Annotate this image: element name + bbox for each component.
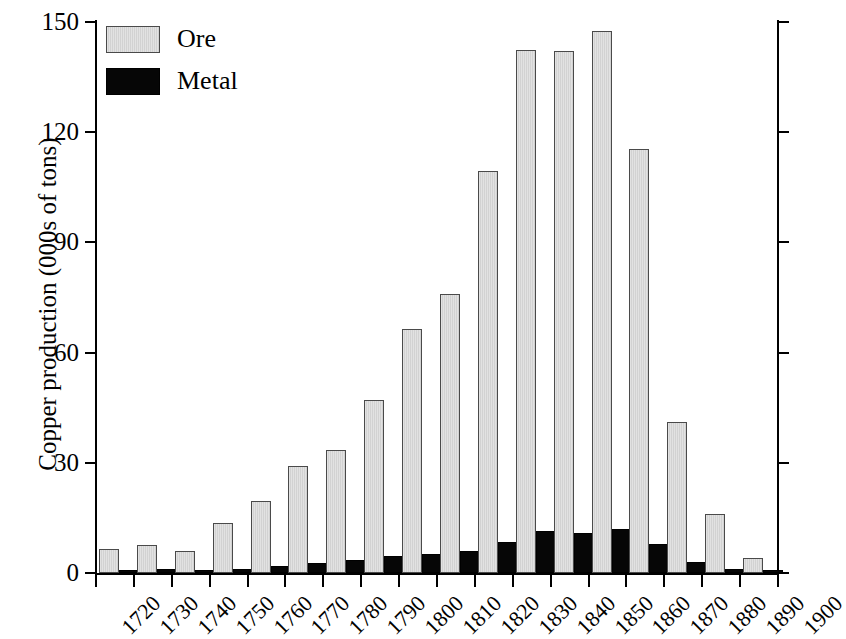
bar-ore-1860 xyxy=(629,149,649,573)
bar-ore-1850 xyxy=(592,31,612,573)
right-tick-60 xyxy=(778,352,789,354)
metal-swatch-icon xyxy=(106,68,160,95)
x-tick-1850 xyxy=(588,575,590,587)
x-tick-1810 xyxy=(436,575,438,587)
y-tick-0 xyxy=(85,572,96,574)
bar-ore-1760 xyxy=(251,501,271,573)
y-axis-line xyxy=(95,20,97,575)
x-tick-label-1800: 1800 xyxy=(421,592,468,639)
x-tick-1770 xyxy=(284,575,286,587)
right-axis-line xyxy=(777,20,779,575)
y-tick-label-60: 60 xyxy=(54,340,79,365)
y-tick-120 xyxy=(85,131,96,133)
x-tick-1900 xyxy=(777,575,779,587)
x-tick-label-1850: 1850 xyxy=(610,592,657,639)
x-tick-label-1750: 1750 xyxy=(232,592,279,639)
x-tick-1800 xyxy=(398,575,400,587)
y-tick-60 xyxy=(85,352,96,354)
bar-ore-1810 xyxy=(440,294,460,573)
y-tick-label-0: 0 xyxy=(67,560,80,585)
bar-ore-1730 xyxy=(137,545,157,573)
x-tick-label-1860: 1860 xyxy=(648,592,695,639)
y-tick-label-90: 90 xyxy=(54,229,79,254)
x-tick-label-1900: 1900 xyxy=(800,592,846,639)
bar-ore-1840 xyxy=(554,51,574,573)
bar-ore-1750 xyxy=(213,523,233,573)
x-tick-label-1760: 1760 xyxy=(269,592,316,639)
y-tick-90 xyxy=(85,241,96,243)
x-tick-1890 xyxy=(739,575,741,587)
x-tick-1780 xyxy=(322,575,324,587)
x-tick-label-1720: 1720 xyxy=(118,592,165,639)
x-tick-1750 xyxy=(209,575,211,587)
ore-swatch-icon xyxy=(106,26,160,53)
bar-ore-1770 xyxy=(288,466,308,573)
x-tick-label-1770: 1770 xyxy=(307,592,354,639)
x-tick-1720 xyxy=(95,575,97,587)
bar-ore-1870 xyxy=(667,422,687,573)
y-tick-label-150: 150 xyxy=(42,9,80,34)
y-tick-label-120: 120 xyxy=(42,119,80,144)
x-tick-1880 xyxy=(701,575,703,587)
bar-ore-1790 xyxy=(364,400,384,573)
x-tick-label-1790: 1790 xyxy=(383,592,430,639)
legend-label-metal: Metal xyxy=(177,68,238,94)
legend-item-metal: Metal xyxy=(106,60,238,102)
x-tick-1730 xyxy=(133,575,135,587)
bar-ore-1880 xyxy=(705,514,725,573)
bar-ore-1740 xyxy=(175,551,195,573)
x-tick-1840 xyxy=(550,575,552,587)
y-tick-30 xyxy=(85,462,96,464)
right-tick-90 xyxy=(778,241,789,243)
x-tick-label-1830: 1830 xyxy=(535,592,582,639)
y-tick-label-30: 30 xyxy=(54,450,79,475)
right-tick-120 xyxy=(778,131,789,133)
x-tick-1820 xyxy=(474,575,476,587)
x-tick-1830 xyxy=(512,575,514,587)
bar-ore-1820 xyxy=(478,171,498,573)
bar-ore-1720 xyxy=(99,549,119,573)
x-tick-label-1840: 1840 xyxy=(573,592,620,639)
bar-ore-1800 xyxy=(402,329,422,573)
legend-label-ore: Ore xyxy=(177,26,216,52)
right-tick-150 xyxy=(778,21,789,23)
x-tick-label-1780: 1780 xyxy=(345,592,392,639)
x-tick-1870 xyxy=(663,575,665,587)
x-tick-label-1820: 1820 xyxy=(497,592,544,639)
x-tick-label-1740: 1740 xyxy=(194,592,241,639)
x-tick-label-1730: 1730 xyxy=(156,592,203,639)
bar-ore-1830 xyxy=(516,50,536,573)
x-tick-label-1890: 1890 xyxy=(762,592,809,639)
bar-ore-1780 xyxy=(326,450,346,573)
bar-metal-1890 xyxy=(763,570,783,573)
x-tick-label-1810: 1810 xyxy=(459,592,506,639)
x-tick-1760 xyxy=(247,575,249,587)
x-tick-1860 xyxy=(625,575,627,587)
x-tick-1790 xyxy=(360,575,362,587)
legend-item-ore: Ore xyxy=(106,18,238,60)
right-tick-30 xyxy=(778,462,789,464)
x-tick-label-1880: 1880 xyxy=(724,592,771,639)
x-tick-1740 xyxy=(171,575,173,587)
x-tick-label-1870: 1870 xyxy=(686,592,733,639)
bar-ore-1890 xyxy=(743,558,763,573)
chart-legend: Ore Metal xyxy=(106,18,238,102)
y-tick-150 xyxy=(85,21,96,23)
